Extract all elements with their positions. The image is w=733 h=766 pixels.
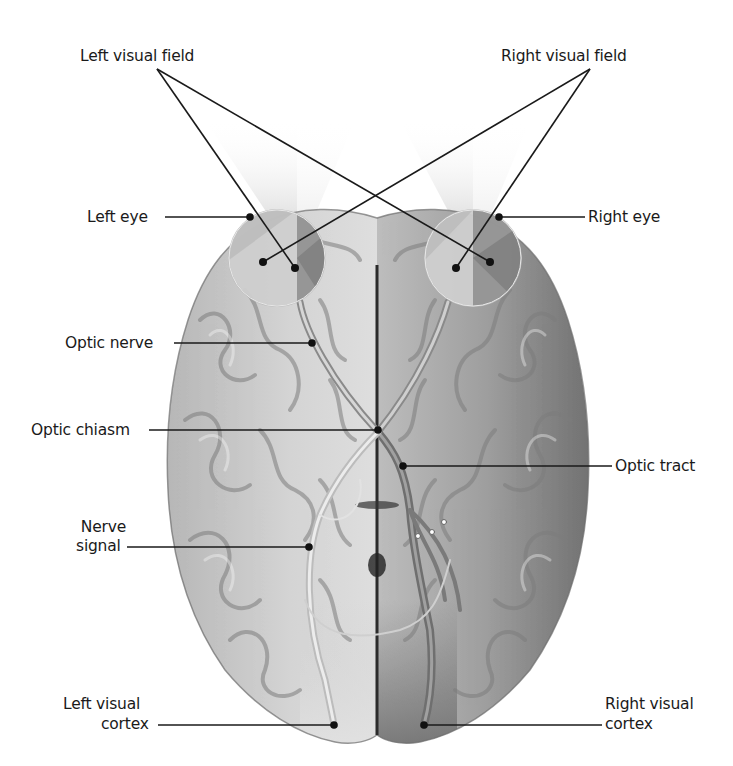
label-left-visual-cortex-line2: cortex <box>101 715 149 734</box>
label-right-visual-cortex-line2: cortex <box>605 715 653 734</box>
label-left-visual-field: Left visual field <box>80 47 194 66</box>
brain-illustration <box>0 0 733 766</box>
label-optic-nerve: Optic nerve <box>65 334 153 353</box>
visual-pathway-diagram: Left visual field Right visual field Lef… <box>0 0 733 766</box>
label-nerve-signal-line1: Nerve <box>76 518 126 537</box>
label-nerve-signal-line2: signal <box>76 537 121 556</box>
label-left-visual-cortex-line1: Left visual <box>63 695 140 714</box>
label-left-eye: Left eye <box>87 208 148 227</box>
label-right-visual-cortex-line1: Right visual <box>605 695 694 714</box>
label-right-eye: Right eye <box>588 208 660 227</box>
label-optic-tract: Optic tract <box>615 457 695 476</box>
label-optic-chiasm: Optic chiasm <box>31 421 130 440</box>
label-right-visual-field: Right visual field <box>501 47 627 66</box>
brain <box>160 200 597 760</box>
